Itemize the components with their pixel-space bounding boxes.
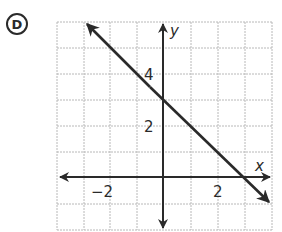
- y-axis-label: y: [169, 22, 180, 40]
- y-tick-2: 2: [144, 118, 154, 136]
- plotted-line: [150, 87, 269, 202]
- grid: [57, 22, 272, 230]
- y-tick-4: 4: [144, 66, 154, 84]
- x-tick-neg2: −2: [91, 183, 113, 201]
- x-axis-label: x: [254, 157, 264, 175]
- coordinate-graph: y x 4 2 −2 2: [0, 0, 282, 232]
- x-tick-2: 2: [213, 183, 223, 201]
- plotted-line: [87, 24, 150, 87]
